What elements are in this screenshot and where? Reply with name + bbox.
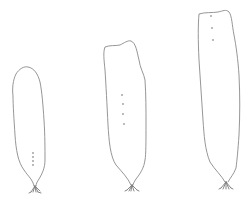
blade-1 <box>13 67 45 193</box>
blade-1-dots <box>32 152 34 166</box>
blade-1-outline <box>13 67 45 186</box>
blade-3-dots <box>210 15 214 41</box>
blade-3 <box>198 10 240 189</box>
blade-2-dots <box>121 94 125 125</box>
blade-2-outline <box>104 41 146 185</box>
blade-2 <box>104 41 146 191</box>
illustration-canvas <box>0 0 251 199</box>
blade-3-root-icon <box>219 182 233 189</box>
blades-illustration <box>0 0 251 199</box>
blade-1-root-icon <box>29 186 41 193</box>
blade-2-root-icon <box>125 185 139 191</box>
blade-3-outline <box>198 10 240 182</box>
